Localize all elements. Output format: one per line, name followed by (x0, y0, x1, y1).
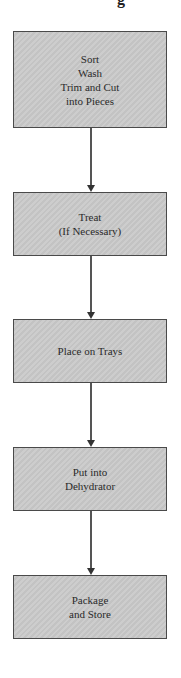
step-box-place-on-trays: Place on Trays (13, 319, 167, 383)
step-label: Put into Dehydrator (65, 465, 115, 493)
step-box-sort-wash-trim: Sort Wash Trim and Cut into Pieces (13, 31, 167, 128)
step-box-package-and-store: Package and Store (13, 575, 167, 639)
step-label: Sort Wash Trim and Cut into Pieces (61, 52, 120, 108)
step-label: Treat (If Necessary) (59, 210, 122, 238)
step-label: Place on Trays (58, 344, 123, 358)
arrow-down-icon (87, 568, 95, 575)
connector-line (90, 256, 92, 313)
connector-line (90, 511, 92, 569)
connector-line (90, 383, 92, 440)
arrow-down-icon (87, 440, 95, 447)
arrow-down-icon (87, 185, 95, 192)
step-label: Package and Store (69, 593, 111, 621)
step-box-treat: Treat (If Necessary) (13, 192, 167, 256)
arrow-down-icon (87, 312, 95, 319)
connector-line (90, 128, 92, 186)
step-box-put-into-dehydrator: Put into Dehydrator (13, 447, 167, 511)
cropped-heading-glyph: g (117, 0, 125, 8)
